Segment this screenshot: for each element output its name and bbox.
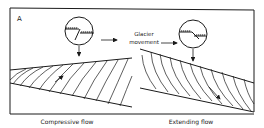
panel-label: A — [17, 15, 22, 23]
left-inset-circle — [65, 17, 94, 45]
glacier-flow-diagram: A Glacier movement — [0, 0, 264, 128]
extending-flow-caption: Extending flow — [169, 118, 214, 126]
compressive-flow-band — [10, 58, 132, 107]
figure-frame — [10, 8, 254, 114]
movement-label-line2: movement — [129, 39, 160, 45]
extending-flow-band — [140, 49, 254, 112]
movement-label-line1: Glacier — [134, 31, 154, 37]
right-inset-circle — [179, 20, 207, 48]
compressive-flow-caption: Compressive flow — [41, 118, 94, 126]
